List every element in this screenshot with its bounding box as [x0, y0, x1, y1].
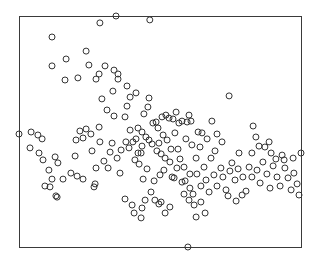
data-point [124, 103, 130, 109]
scatter-chart [0, 0, 318, 262]
data-point [147, 17, 153, 23]
data-point [274, 174, 280, 180]
data-point [282, 165, 288, 171]
data-point [266, 139, 272, 145]
data-point [254, 167, 260, 173]
data-point [102, 63, 108, 69]
data-point [133, 90, 139, 96]
data-point [202, 210, 208, 216]
data-point [131, 210, 137, 216]
data-point [118, 147, 124, 153]
data-point [141, 111, 147, 117]
data-point [49, 34, 55, 40]
data-point [187, 185, 193, 191]
data-point [55, 160, 61, 166]
data-point [123, 139, 129, 145]
data-point [203, 177, 209, 183]
data-point [294, 181, 300, 187]
data-point [214, 131, 220, 137]
data-point [273, 156, 279, 162]
data-point [262, 144, 268, 150]
data-point [83, 48, 89, 54]
plot-frame [20, 17, 302, 248]
data-point [72, 153, 78, 159]
data-point [211, 172, 217, 178]
data-point [151, 178, 157, 184]
data-point [223, 187, 229, 193]
data-point [105, 165, 111, 171]
data-point [154, 148, 160, 154]
data-point [187, 171, 193, 177]
data-point [60, 176, 66, 182]
data-point [267, 185, 273, 191]
data-point [225, 193, 231, 199]
data-point [144, 166, 150, 172]
data-point [268, 150, 274, 156]
data-point [201, 164, 207, 170]
data-point [260, 159, 266, 165]
data-point [86, 62, 92, 68]
data-point [253, 134, 259, 140]
data-point [156, 140, 162, 146]
data-point [107, 149, 113, 155]
data-point [170, 116, 176, 122]
data-point [172, 130, 178, 136]
data-point [75, 75, 81, 81]
data-point [181, 164, 187, 170]
data-point [235, 166, 241, 172]
data-point [89, 148, 95, 154]
data-point [208, 155, 214, 161]
data-point [239, 192, 245, 198]
data-point [99, 96, 105, 102]
data-point [193, 214, 199, 220]
data-point [39, 136, 45, 142]
data-point [250, 123, 256, 129]
data-point [140, 176, 146, 182]
data-point [62, 77, 68, 83]
data-point [227, 168, 233, 174]
data-point [198, 183, 204, 189]
data-point [160, 132, 166, 138]
data-point [226, 93, 232, 99]
data-point [285, 175, 291, 181]
data-point [290, 155, 296, 161]
data-point [145, 104, 151, 110]
data-point [52, 154, 58, 160]
data-point [167, 204, 173, 210]
data-point [40, 157, 46, 163]
data-point [127, 94, 133, 100]
data-point [161, 167, 167, 173]
data-point [68, 170, 74, 176]
data-point [270, 163, 276, 169]
data-point [229, 160, 235, 166]
data-point [189, 142, 195, 148]
data-point [277, 183, 283, 189]
data-point [88, 131, 94, 137]
data-point [193, 155, 199, 161]
data-point [148, 189, 154, 195]
data-point [194, 171, 200, 177]
data-point [186, 112, 192, 118]
data-point [129, 202, 135, 208]
data-point [122, 196, 128, 202]
data-point [111, 113, 117, 119]
data-point [209, 118, 215, 124]
data-point [249, 150, 255, 156]
data-point [73, 137, 79, 143]
data-point [206, 189, 212, 195]
data-point [126, 145, 132, 151]
data-point [291, 170, 297, 176]
data-point [204, 136, 210, 142]
data-point [162, 210, 168, 216]
data-point [136, 161, 142, 167]
data-point [80, 135, 86, 141]
data-point [49, 63, 55, 69]
data-point [177, 156, 183, 162]
data-point [138, 215, 144, 221]
data-point [195, 129, 201, 135]
data-point [214, 183, 220, 189]
data-point [109, 140, 115, 146]
data-points [16, 13, 304, 250]
data-point [142, 197, 148, 203]
data-point [233, 198, 239, 204]
